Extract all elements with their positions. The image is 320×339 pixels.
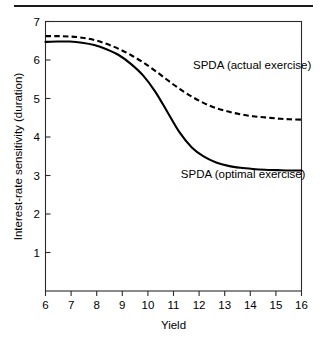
y-tick-label: 4 [34,131,41,143]
series-label-spda-actual-exercise: SPDA (actual exercise) [193,59,311,71]
x-axis-title: Yield [161,319,186,331]
x-tick-label: 9 [119,299,125,311]
x-tick-label: 16 [295,299,308,311]
x-tick-label: 14 [244,299,257,311]
x-axis-tick-labels: 6 7 8 9 10 11 12 13 14 15 16 [42,299,308,311]
y-tick-label: 6 [34,54,40,66]
x-tick-label: 10 [142,299,155,311]
chart-canvas: 7 6 5 4 3 2 1 6 7 8 9 10 [0,0,320,339]
x-tick-label: 12 [193,299,206,311]
x-axis-ticks [46,291,302,296]
series-label-spda-optimal-exercise: SPDA (optimal exercise) [181,168,306,180]
x-tick-label: 15 [270,299,283,311]
y-axis-title: Interest-rate sensitivity (duration) [12,73,24,241]
x-tick-label: 7 [68,299,74,311]
y-axis-ticks [46,22,51,253]
y-tick-label: 2 [34,208,40,220]
x-tick-label: 13 [218,299,231,311]
x-tick-label: 11 [168,299,180,311]
y-tick-label: 5 [34,93,40,105]
series-line-spda-actual-exercise [46,36,302,120]
y-tick-label: 1 [34,247,40,259]
x-tick-label: 6 [42,299,48,311]
y-tick-label: 3 [34,170,40,182]
y-tick-label: 7 [34,16,40,28]
x-tick-label: 8 [93,299,99,311]
y-axis-tick-labels: 7 6 5 4 3 2 1 [34,16,41,259]
figure-container: 7 6 5 4 3 2 1 6 7 8 9 10 [0,0,320,339]
